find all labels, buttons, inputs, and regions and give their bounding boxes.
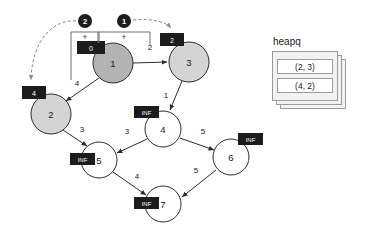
edge-1-3 [133, 62, 167, 63]
distance-value-node-7: INF [142, 201, 152, 207]
distance-tag-node-4: INF [134, 106, 159, 118]
heapq-title: heapq [273, 36, 348, 47]
edge-4-5 [117, 139, 147, 153]
plus-icon-step-2: + [82, 32, 87, 42]
edge-weight-2-5: 3 [80, 125, 85, 134]
distance-tag-node-3: 2 [160, 33, 184, 46]
node-6-label: 6 [228, 152, 233, 163]
dashed-arrow-step-1 [133, 19, 171, 28]
heapq-card-front: (2, 3) (4, 2) [272, 51, 338, 101]
edge-weight-6-7: 5 [194, 166, 199, 175]
distance-value-node-4: INF [142, 110, 152, 116]
edge-weight-4-5: 3 [125, 127, 130, 136]
distance-value-node-5: INF [78, 157, 88, 163]
graph-svg: 2 4 1 3 3 5 4 5 1 3 2 4 5 [0, 0, 367, 233]
edge-weight-3-4: 1 [164, 91, 169, 100]
edge-5-7 [113, 172, 146, 195]
node-4-label: 4 [160, 124, 165, 135]
edge-group [63, 62, 216, 197]
distance-tag-node-1: 0 [77, 41, 105, 54]
node-5-label: 5 [96, 155, 101, 166]
plus-icon-step-1: + [121, 32, 126, 42]
diagram-canvas: 2 4 1 3 3 5 4 5 1 3 2 4 5 [0, 0, 367, 233]
node-7-label: 7 [160, 199, 165, 210]
distance-tag-node-7: INF [134, 197, 159, 209]
dashed-arrow-step-2 [31, 21, 76, 80]
edge-weight-1-2: 4 [75, 79, 80, 88]
heapq-entry-0[interactable]: (2, 3) [277, 59, 333, 74]
distance-tag-node-5: INF [70, 153, 95, 165]
edge-3-4 [170, 81, 182, 110]
node-2[interactable]: 2 [31, 94, 71, 134]
step-badge-2-number: 2 [83, 17, 87, 26]
step-badge-1: 1 [117, 14, 131, 28]
node-1-label: 1 [110, 58, 115, 69]
edge-1-2 [66, 78, 99, 101]
edge-6-7 [182, 170, 216, 197]
edge-4-6 [180, 138, 214, 150]
distance-value-node-6: INF [246, 137, 256, 143]
distance-value-node-3: 2 [170, 37, 174, 44]
heapq-entry-1[interactable]: (4, 2) [277, 78, 333, 93]
node-3-label: 3 [186, 57, 191, 68]
distance-value-node-1: 0 [89, 45, 93, 52]
step-badge-1-number: 1 [122, 17, 126, 26]
heapq-card-stack: (2, 3) (4, 2) [272, 51, 348, 109]
heapq-panel: heapq (2, 3) (4, 2) [272, 36, 348, 109]
distance-tag-node-6: INF [238, 133, 263, 145]
edge-weight-4-6: 5 [201, 127, 206, 136]
distance-value-node-2: 4 [32, 90, 36, 97]
distance-tag-node-2: 4 [22, 86, 46, 99]
edge-weight-5-7: 4 [135, 172, 140, 181]
step-badge-2: 2 [78, 14, 92, 28]
node-2-label: 2 [48, 109, 53, 120]
node-3[interactable]: 3 [169, 42, 209, 82]
